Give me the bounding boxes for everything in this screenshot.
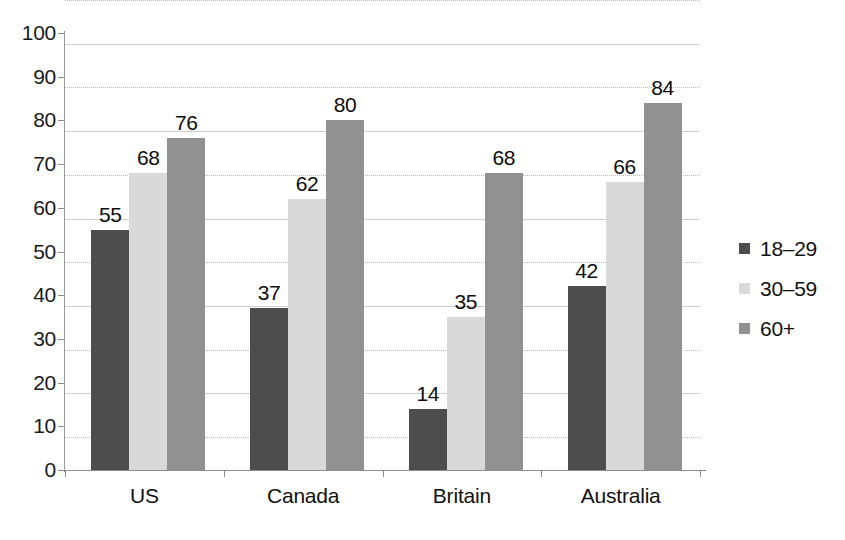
x-axis: USCanadaBritainAustralia xyxy=(0,0,845,540)
x-axis-label-britain: Britain xyxy=(383,485,542,507)
x-axis-label-canada: Canada xyxy=(224,485,383,507)
x-tick-mark xyxy=(700,470,701,477)
legend-label: 30–59 xyxy=(760,278,817,299)
x-tick-mark xyxy=(383,470,384,477)
x-axis-label-us: US xyxy=(65,485,224,507)
legend-item-60+[interactable]: 60+ xyxy=(739,308,845,348)
legend-item-3059[interactable]: 30–59 xyxy=(739,268,845,308)
bar-chart: 0102030405060708090100 55687637628014356… xyxy=(0,0,845,540)
legend-label: 18–29 xyxy=(760,238,817,259)
legend-label: 60+ xyxy=(760,318,795,339)
x-tick-mark xyxy=(65,470,66,477)
x-axis-label-australia: Australia xyxy=(541,485,700,507)
legend-swatch-icon xyxy=(739,283,750,294)
legend-swatch-icon xyxy=(739,323,750,334)
legend-swatch-icon xyxy=(739,243,750,254)
x-tick-mark xyxy=(224,470,225,477)
legend-item-1829[interactable]: 18–29 xyxy=(739,228,845,268)
x-tick-mark xyxy=(541,470,542,477)
chart-legend: 18–2930–5960+ xyxy=(739,228,845,348)
